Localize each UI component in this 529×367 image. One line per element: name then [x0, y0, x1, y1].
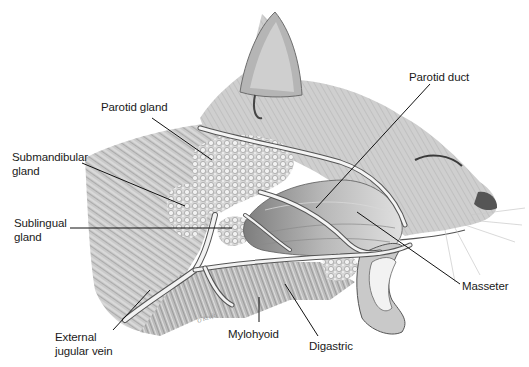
anatomy-figure: O'Keefe Parotid gland Submandibular glan… [0, 0, 529, 367]
cat-head-illustration: O'Keefe [0, 0, 529, 367]
label-digastric: Digastric [309, 339, 353, 353]
label-parotid-gland: Parotid gland [101, 100, 167, 114]
label-mylohyoid: Mylohyoid [228, 327, 279, 341]
label-parotid-duct: Parotid duct [409, 70, 469, 84]
label-masseter: Masseter [462, 279, 509, 293]
label-external-jugular-vein: External jugular vein [55, 330, 113, 358]
label-submandibular-gland: Submandibular gland [12, 150, 88, 178]
masseter-shape [244, 180, 403, 256]
label-sublingual-gland: Sublingual gland [14, 216, 67, 244]
